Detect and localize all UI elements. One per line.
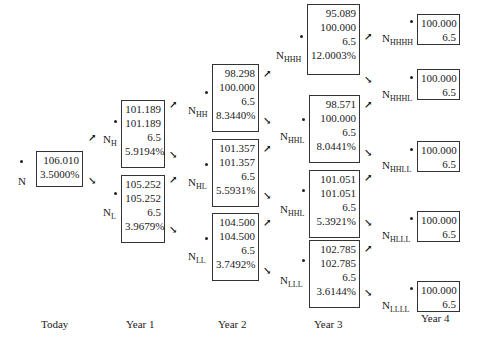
node-value: 6.5 [216,243,255,257]
node-value: 101.357 [216,141,255,155]
node-value: 100.000 [313,111,356,125]
node-box-NHHL-2: 101.051 101.051 6.5 5.3921% [309,170,360,238]
node-box-NHHHH: 100.000 6.5 [417,14,460,45]
node-box-N: 106.010 3.5000% [36,151,83,187]
node-value: 100.000 [421,283,456,297]
arrow-down-icon: ↘ [364,148,372,158]
arrow-down-icon: ↘ [364,75,372,85]
arrow-up-icon: ↗ [364,100,372,110]
arrow-down-icon: ↘ [364,288,372,298]
node-label-NHHL: NHHL [280,130,304,147]
column-label-year-1: Year 1 [126,318,155,330]
node-value: 6.5 [421,30,456,44]
node-label-NLLL: NLLL [280,274,303,291]
node-value: 101.051 [313,172,356,186]
node-dot [114,192,117,195]
node-value: 98.571 [313,97,356,111]
node-dot [302,189,305,192]
arrow-down-icon: ↘ [263,266,271,276]
node-label-NHHHH: NHHHH [382,32,413,49]
column-label-year-4: Year 4 [421,312,450,324]
node-box-NLLL: 102.785 102.785 6.5 3.6144% [309,240,360,308]
node-value: 12.0003% [311,48,356,62]
node-box-NHHL: 98.571 100.000 6.5 8.0441% [309,95,360,163]
node-label-NHLLL: NHLLL [382,229,410,246]
node-value: 105.252 [125,191,161,205]
node-value: 100.000 [311,20,356,34]
node-value: 6.5 [421,297,456,311]
node-value: 101.051 [313,186,356,200]
arrow-down-icon: ↘ [263,191,271,201]
arrow-down-icon: ↘ [263,116,271,126]
column-label-today: Today [41,318,68,330]
node-dot [410,217,413,220]
node-label-NLL: NLL [188,250,206,267]
node-value: 6.5 [313,200,356,214]
node-value: 6.5 [216,94,255,108]
node-dot [410,148,413,151]
node-value: 3.5000% [40,167,79,181]
arrow-up-icon: ↗ [88,133,96,143]
node-dot [205,91,208,94]
arrow-up-icon: ↗ [263,144,271,154]
arrow-up-icon: ↗ [364,32,372,42]
arrow-up-icon: ↗ [364,244,372,254]
node-value: 6.5 [216,169,255,183]
node-box-NHHLL: 100.000 6.5 [417,141,460,172]
node-box-NHHH: 95.089 100.000 6.5 12.0003% [307,4,360,75]
node-dot [302,118,305,121]
node-value: 3.9679% [125,219,161,233]
node-label-NHHH: NHHH [276,49,301,66]
node-label-NHL: NHL [188,176,207,193]
node-value: 6.5 [421,85,456,99]
node-label-N: N [18,175,26,192]
arrow-up-icon: ↗ [263,218,271,228]
node-value: 102.785 [313,242,356,256]
node-value: 8.0441% [313,139,356,153]
node-value: 6.5 [125,130,161,144]
node-dot [20,160,23,163]
node-value: 102.785 [313,256,356,270]
column-label-year-2: Year 2 [218,318,247,330]
node-box-NH: 101.189 101.189 6.5 5.9194% [121,100,165,168]
arrow-up-icon: ↗ [364,173,372,183]
node-box-NHL: 101.357 101.357 6.5 5.5931% [212,139,259,207]
node-dot [410,287,413,290]
node-value: 98.298 [216,66,255,80]
node-label-NLLLL: NLLLL [382,299,410,316]
node-box-NL: 105.252 105.252 6.5 3.9679% [121,175,165,243]
node-value: 5.3921% [313,214,356,228]
arrow-up-icon: ↗ [169,175,177,185]
node-value: 5.9194% [125,144,161,158]
node-label-NH: NH [103,133,117,150]
node-box-NLL: 104.500 104.500 6.5 3.7492% [212,213,259,281]
node-dot [410,76,413,79]
node-dot [410,20,413,23]
node-value: 5.5931% [216,183,255,197]
arrow-up-icon: ↗ [169,100,177,110]
node-value: 100.000 [421,16,456,30]
node-value: 101.189 [125,102,161,116]
node-value: 95.089 [311,6,356,20]
node-value: 104.500 [216,229,255,243]
node-label-NHHLL: NHHLL [382,159,411,176]
node-box-NHH: 98.298 100.000 6.5 8.3440% [212,64,259,132]
arrow-down-icon: ↘ [364,218,372,228]
node-value: 105.252 [125,177,161,191]
node-value: 6.5 [125,205,161,219]
node-dot [300,35,303,38]
node-value: 6.5 [313,125,356,139]
arrow-down-icon: ↘ [169,150,177,160]
node-dot [205,237,208,240]
node-dot [302,259,305,262]
node-value: 100.000 [216,80,255,94]
node-box-NLLLL: 100.000 6.5 [417,281,460,312]
node-label-NHHHL: NHHHL [382,88,412,105]
node-value: 3.7492% [216,257,255,271]
node-value: 6.5 [311,34,356,48]
arrow-up-icon: ↗ [263,69,271,79]
node-label-NHH: NHH [188,104,208,121]
node-value: 6.5 [313,270,356,284]
node-value: 101.357 [216,155,255,169]
node-value: 104.500 [216,215,255,229]
